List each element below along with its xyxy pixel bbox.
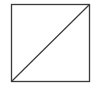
diagram-canvas [0,0,91,88]
diagonal-line [12,5,90,82]
